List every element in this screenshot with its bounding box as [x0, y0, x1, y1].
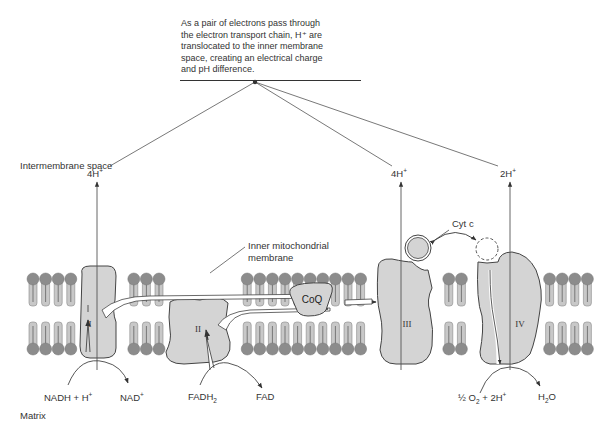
- oxygen-label: ½ O2 + 2H+: [458, 391, 506, 405]
- matrix-label: Matrix: [20, 410, 46, 421]
- caption-line-4: space, creating an electrical charge: [181, 53, 356, 65]
- inner-membrane-label-2: membrane: [248, 252, 293, 263]
- proton-label-i: 4H+: [87, 167, 103, 179]
- caption-line-1: As a pair of electrons pass through: [181, 18, 356, 30]
- cyt-c-label: Cyt c: [452, 218, 474, 229]
- inner-membrane-leader: [210, 247, 245, 273]
- proton-label-iii: 4H+: [391, 167, 407, 179]
- nad-label: NAD+: [120, 391, 144, 403]
- complex-ii-label: II: [195, 324, 201, 334]
- caption-line-2: the electron transport chain, H⁺ are: [181, 30, 356, 42]
- fad-label: FAD: [256, 391, 274, 402]
- caption-leader-lines: [110, 80, 498, 166]
- fadh2-label: FADH2: [188, 391, 217, 404]
- caption-underline: [180, 80, 361, 81]
- proton-label-iv: 2H+: [500, 167, 516, 179]
- caption-text: As a pair of electrons pass through the …: [181, 18, 356, 76]
- cytochrome-c: [405, 230, 498, 261]
- complex-iv: IV: [478, 252, 542, 364]
- inner-membrane-label-1: Inner mitochondrial: [248, 240, 329, 251]
- water-label: H2O: [538, 391, 556, 404]
- reaction-arc-iv: [480, 367, 540, 393]
- reaction-arc-i: [68, 361, 128, 385]
- caption-line-3: translocated to the inner membrane: [181, 41, 356, 53]
- complex-iii-label: III: [403, 319, 412, 329]
- caption-line-5: and pH difference.: [181, 64, 356, 76]
- complex-iii: III: [377, 259, 432, 364]
- nadh-label: NADH + H+: [44, 391, 92, 403]
- coq-label: CoQ: [302, 294, 323, 305]
- complex-iv-label: IV: [515, 319, 525, 329]
- complex-i-label: I: [89, 319, 92, 329]
